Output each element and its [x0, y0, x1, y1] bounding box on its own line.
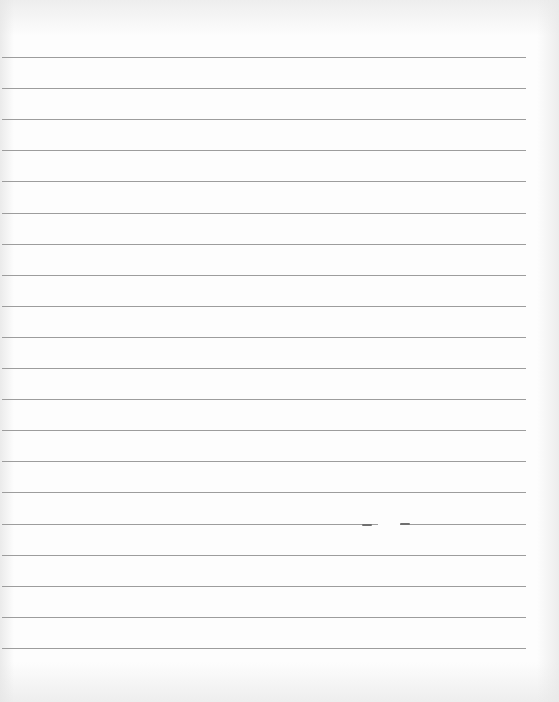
ruled-paper-sheet [0, 0, 559, 702]
ruled-line [2, 555, 526, 556]
ruled-line [2, 181, 526, 182]
ruled-line [2, 648, 526, 649]
ink-smudge [362, 524, 372, 526]
ruled-line [2, 430, 526, 431]
ink-smudge [400, 523, 410, 525]
ruled-line [2, 461, 526, 462]
ruled-line [2, 617, 526, 618]
ruled-line [2, 57, 526, 58]
ruled-line [2, 306, 526, 307]
ruled-line [2, 492, 526, 493]
ruled-line [2, 586, 526, 587]
ruled-line [2, 337, 526, 338]
ruled-line [2, 213, 526, 214]
ruled-line [2, 88, 526, 89]
ruled-line [2, 368, 526, 369]
ruled-line [2, 244, 526, 245]
line-gap [378, 523, 400, 525]
ruled-line [2, 399, 526, 400]
ruled-line [2, 275, 526, 276]
ruled-line [2, 524, 526, 525]
ruled-line [2, 150, 526, 151]
ruled-line [2, 119, 526, 120]
